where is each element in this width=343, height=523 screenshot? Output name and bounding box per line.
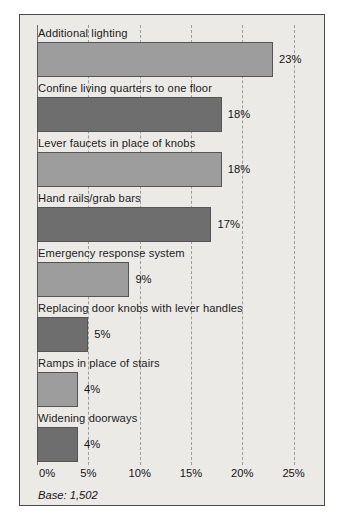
bar-category-label: Ramps in place of stairs bbox=[38, 357, 160, 369]
plot-area: Additional lighting23%Confine living qua… bbox=[37, 25, 309, 465]
bar bbox=[37, 372, 78, 407]
bar bbox=[37, 152, 222, 187]
bar-group: Lever faucets in place of knobs18% bbox=[37, 135, 309, 190]
x-axis-tick-labels: 0%5%10%15%20%25% bbox=[37, 467, 309, 483]
bar-group: Hand rails/grab bars17% bbox=[37, 190, 309, 245]
bar bbox=[37, 207, 211, 242]
bar bbox=[37, 97, 222, 132]
x-tick-label: 10% bbox=[128, 467, 150, 479]
chart-frame: Additional lighting23%Confine living qua… bbox=[19, 14, 325, 506]
x-tick-label: 0% bbox=[39, 467, 55, 479]
bar-value-label: 4% bbox=[84, 383, 100, 395]
bar-group: Additional lighting23% bbox=[37, 25, 309, 80]
x-tick-label: 5% bbox=[80, 467, 96, 479]
bar-category-label: Lever faucets in place of knobs bbox=[38, 137, 195, 149]
x-tick-label: 20% bbox=[231, 467, 253, 479]
bar-category-label: Additional lighting bbox=[38, 27, 128, 39]
bar bbox=[37, 262, 129, 297]
base-footnote: Base: 1,502 bbox=[38, 489, 98, 501]
bar-group: Confine living quarters to one floor18% bbox=[37, 80, 309, 135]
bar-value-label: 18% bbox=[228, 163, 250, 175]
bar-value-label: 9% bbox=[135, 273, 151, 285]
bar-value-label: 4% bbox=[84, 438, 100, 450]
bar-category-label: Emergency response system bbox=[38, 247, 185, 259]
bar-group: Emergency response system9% bbox=[37, 245, 309, 300]
bar-value-label: 17% bbox=[217, 218, 239, 230]
bar-category-label: Replacing door knobs with lever handles bbox=[38, 302, 243, 314]
bar-value-label: 23% bbox=[279, 53, 301, 65]
bar-category-label: Hand rails/grab bars bbox=[38, 192, 141, 204]
x-tick-label: 15% bbox=[180, 467, 202, 479]
bar-group: Ramps in place of stairs4% bbox=[37, 355, 309, 410]
bar-value-label: 5% bbox=[94, 328, 110, 340]
bar-group: Replacing door knobs with lever handles5… bbox=[37, 300, 309, 355]
bar bbox=[37, 42, 273, 77]
bar-group: Widening doorways4% bbox=[37, 410, 309, 465]
bar bbox=[37, 317, 88, 352]
bar-category-label: Confine living quarters to one floor bbox=[38, 82, 212, 94]
x-tick-label: 25% bbox=[282, 467, 304, 479]
bar-category-label: Widening doorways bbox=[38, 412, 137, 424]
bar bbox=[37, 427, 78, 462]
bar-value-label: 18% bbox=[228, 108, 250, 120]
